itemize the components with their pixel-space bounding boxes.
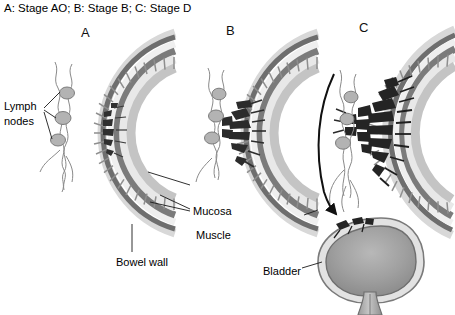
label-lymph-nodes-line1: Lymph xyxy=(4,100,37,112)
panel-letter-a: A xyxy=(81,26,90,41)
label-mucosa: Mucosa xyxy=(193,205,232,218)
panel-c-bowel-wall xyxy=(333,30,455,235)
panel-letter-b: B xyxy=(226,24,235,39)
label-bowel-wall: Bowel wall xyxy=(116,256,168,269)
lymph-node-chain-b xyxy=(196,68,226,182)
label-muscle: Muscle xyxy=(196,229,231,242)
illustration-svg xyxy=(0,0,455,315)
lymph-node-chain-c xyxy=(330,70,359,212)
metastasis-arrow xyxy=(319,74,336,214)
label-lymph-nodes: Lymphnodes xyxy=(4,99,37,129)
figure-canvas: A: Stage AO; B: Stage B; C: Stage D A B … xyxy=(0,0,455,315)
figure-caption: A: Stage AO; B: Stage B; C: Stage D xyxy=(4,2,191,15)
lymph-node-chain-a xyxy=(40,62,75,192)
panel-b-bowel-wall xyxy=(222,33,318,233)
panel-a-bowel-wall xyxy=(94,33,175,233)
label-lymph-nodes-line2: nodes xyxy=(4,115,34,127)
label-bladder: Bladder xyxy=(263,265,301,278)
bladder xyxy=(318,217,424,315)
panel-letter-c: C xyxy=(359,21,368,36)
